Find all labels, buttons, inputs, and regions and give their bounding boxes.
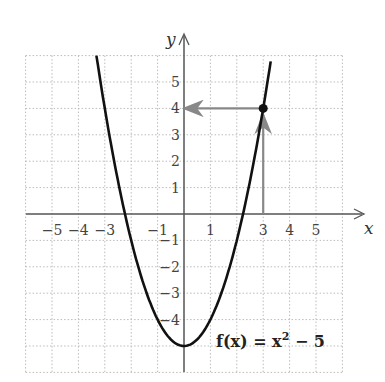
highlighted-point <box>259 104 268 113</box>
svg-text:3: 3 <box>171 127 180 143</box>
svg-text:5: 5 <box>171 74 180 90</box>
x-axis-label: x <box>364 218 374 238</box>
function-label: f(x) = x2 − 5 <box>216 330 325 351</box>
svg-text:5: 5 <box>312 222 321 238</box>
svg-text:1: 1 <box>206 222 215 238</box>
svg-text:1: 1 <box>171 180 180 196</box>
svg-text:−1: −1 <box>159 232 180 248</box>
svg-text:−4: −4 <box>159 312 180 328</box>
annotation-arrows <box>184 108 263 214</box>
axes <box>26 34 364 372</box>
svg-text:−5: −5 <box>42 222 63 238</box>
svg-text:4: 4 <box>171 100 180 116</box>
svg-text:4: 4 <box>285 222 294 238</box>
svg-text:−4: −4 <box>68 222 89 238</box>
svg-text:3: 3 <box>259 222 268 238</box>
svg-text:−3: −3 <box>94 222 115 238</box>
svg-text:−3: −3 <box>159 285 180 301</box>
svg-text:2: 2 <box>171 153 180 169</box>
y-axis-label: y <box>165 29 176 49</box>
tick-labels: −5−4−3−1134554321−1−2−3−4 <box>42 74 321 328</box>
svg-text:−2: −2 <box>159 259 180 275</box>
chart: −5−4−3−1134554321−1−2−3−4 x y f(x) = x2 … <box>0 0 385 382</box>
